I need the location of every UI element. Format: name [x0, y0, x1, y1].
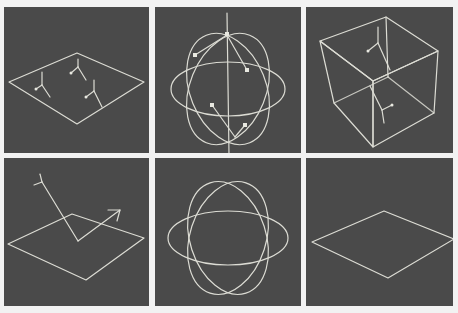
panel-sphere-wireframe [155, 158, 301, 306]
panel-cube-with-normals [306, 7, 453, 153]
panel-plane-with-normals [4, 7, 149, 153]
panel-sphere-with-arrows [155, 7, 301, 153]
panel-plane-reflection [4, 158, 149, 306]
plane-reflection-diagram [4, 158, 149, 306]
normal-glyph-2 [70, 59, 87, 80]
panel-plane-plain [306, 158, 453, 306]
plane-normals-diagram [4, 7, 149, 153]
plane-plain-diagram [306, 158, 453, 306]
sphere-wireframe-diagram [155, 158, 301, 306]
cube-normals-diagram [306, 7, 453, 153]
sphere-arrows-diagram [155, 7, 301, 153]
normal-glyph-3 [85, 80, 103, 107]
normal-glyph-1 [35, 72, 51, 97]
